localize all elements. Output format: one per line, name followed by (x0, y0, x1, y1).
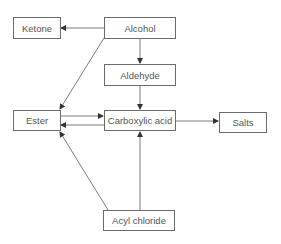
edge-acyl-ester (60, 132, 108, 210)
node-ketone: Ketone (13, 17, 61, 39)
node-label: Alcohol (124, 23, 155, 34)
node-label: Acyl chloride (112, 215, 166, 226)
node-ester: Ester (13, 110, 61, 131)
node-acyl-chloride: Acyl chloride (103, 210, 175, 231)
node-salts: Salts (219, 112, 267, 133)
node-label: Ketone (22, 23, 52, 34)
node-label: Salts (232, 117, 253, 128)
node-carboxylic-acid: Carboxylic acid (104, 110, 176, 131)
node-alcohol: Alcohol (104, 17, 176, 39)
node-label: Carboxylic acid (108, 115, 172, 126)
node-label: Ester (26, 115, 48, 126)
node-aldehyde: Aldehyde (104, 64, 176, 86)
edge-alcohol-ester (60, 38, 104, 109)
node-label: Aldehyde (120, 70, 160, 81)
